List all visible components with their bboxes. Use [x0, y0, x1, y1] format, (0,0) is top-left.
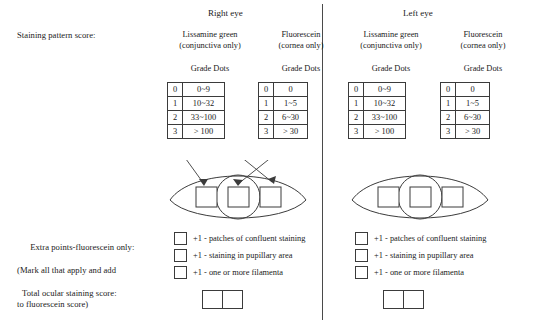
table-row: 1 1~5 [259, 97, 308, 111]
dots-cell: 0 [456, 83, 490, 97]
list-item[interactable]: +1 - patches of confluent staining [355, 230, 486, 247]
cornea-box [228, 187, 249, 207]
checkbox-confluent-staining[interactable] [355, 232, 368, 245]
list-item[interactable]: +1 - staining in pupillary area [355, 247, 486, 264]
right-lissamine-header-line2: (conjunctiva only) [160, 40, 260, 51]
dots-cell: 6~30 [456, 111, 490, 125]
extra-point-label: +1 - one or more filamenta [193, 267, 283, 278]
grade-cell: 0 [168, 83, 183, 97]
list-item[interactable]: +1 - one or more filamenta [355, 264, 486, 281]
grade-cell: 0 [349, 83, 364, 97]
right-lissamine-grade-table: 0 0~9 1 10~32 2 33~100 3 > 100 [167, 82, 225, 139]
checkbox-filamenta[interactable] [174, 266, 187, 279]
arrowhead-cornea [233, 179, 243, 186]
extra-points-label: Extra points-fluorescein only: (Mark all… [17, 231, 134, 324]
dots-cell: 0~9 [183, 83, 225, 97]
table-row: 1 10~32 [349, 97, 406, 111]
right-extra-points-list: +1 - patches of confluent staining +1 - … [174, 230, 305, 281]
table-row: 3 > 30 [259, 125, 308, 139]
temporal-conjunctiva-box [442, 187, 463, 207]
table-row: 2 6~30 [441, 111, 490, 125]
table-row: 1 1~5 [441, 97, 490, 111]
extra-point-label: +1 - patches of confluent staining [193, 233, 305, 244]
extra-point-label: +1 - staining in pupillary area [374, 250, 473, 261]
grade-cell: 1 [441, 97, 456, 111]
total-score-digit-cell[interactable] [202, 290, 223, 309]
checkbox-confluent-staining[interactable] [174, 232, 187, 245]
extra-points-label-line3: to fluorescein score) [17, 299, 134, 310]
right-fluorescein-header-line1: Fluorescein [281, 30, 320, 39]
checkbox-pupillary-staining[interactable] [355, 249, 368, 262]
grade-cell: 3 [441, 125, 456, 139]
arrow-fluorescein-to-cornea [238, 160, 283, 184]
right-lissamine-header-line1: Lissamine green [182, 30, 237, 39]
grade-cell: 3 [259, 125, 274, 139]
table-row: 2 6~30 [259, 111, 308, 125]
right-eye-diagram [168, 160, 318, 226]
temporal-conjunctiva-box [260, 187, 281, 207]
ocular-staining-score-form: Staining pattern score: Extra points-flu… [0, 0, 539, 324]
table-row: 0 0~9 [168, 83, 225, 97]
cornea-box [410, 187, 431, 207]
left-lissamine-grade-dots-header: Grade Dots [341, 64, 441, 73]
left-fluorescein-header-line1: Fluorescein [463, 30, 502, 39]
total-score-digit-cell[interactable] [383, 290, 404, 309]
eye-panel-divider [322, 4, 323, 320]
grade-cell: 0 [259, 83, 274, 97]
dots-cell: 1~5 [456, 97, 490, 111]
grade-cell: 2 [349, 111, 364, 125]
dots-cell: > 30 [456, 125, 490, 139]
mapping-arrows [178, 160, 283, 184]
checkbox-pupillary-staining[interactable] [174, 249, 187, 262]
grade-cell: 2 [168, 111, 183, 125]
total-score-digit-cell[interactable] [404, 290, 424, 309]
left-lissamine-header-line2: (conjunctiva only) [341, 40, 441, 51]
right-eye-panel: Right eye Lissamine green (conjunctiva o… [160, 0, 322, 324]
arrowhead-temporal [268, 176, 276, 184]
right-lissamine-grade-dots-header: Grade Dots [160, 64, 260, 73]
left-total-score-box[interactable] [383, 290, 424, 309]
left-fluorescein-grade-dots-header: Grade Dots [438, 64, 528, 73]
table-row: 1 10~32 [168, 97, 225, 111]
arrowhead-nasal [199, 179, 208, 186]
right-total-score-box[interactable] [202, 290, 243, 309]
dots-cell: 0 [274, 83, 308, 97]
dots-cell: > 100 [364, 125, 406, 139]
arrow-heads [199, 176, 276, 186]
checkbox-filamenta[interactable] [355, 266, 368, 279]
right-eye-title: Right eye [208, 8, 243, 18]
grade-cell: 2 [441, 111, 456, 125]
grade-cell: 2 [259, 111, 274, 125]
table-row: 0 0~9 [349, 83, 406, 97]
table-row: 3 > 100 [168, 125, 225, 139]
grade-cell: 1 [349, 97, 364, 111]
left-lissamine-header: Lissamine green (conjunctiva only) [341, 29, 441, 51]
extra-point-label: +1 - patches of confluent staining [374, 233, 486, 244]
table-row: 0 0 [441, 83, 490, 97]
dots-cell: 10~32 [364, 97, 406, 111]
extra-points-label-line2: (Mark all that apply and add [17, 265, 134, 276]
extra-point-label: +1 - staining in pupillary area [193, 250, 292, 261]
left-eye-title: Left eye [403, 8, 433, 18]
grade-cell: 0 [441, 83, 456, 97]
dots-cell: 0~9 [364, 83, 406, 97]
left-extra-points-list: +1 - patches of confluent staining +1 - … [355, 230, 486, 281]
nasal-conjunctiva-box [378, 187, 399, 207]
total-ocular-staining-score-label: Total ocular staining score: [22, 288, 117, 299]
left-fluorescein-header: Fluorescein (cornea only) [438, 29, 528, 51]
left-lissamine-grade-table: 0 0~9 1 10~32 2 33~100 3 > 100 [348, 82, 406, 139]
table-row: 0 0 [259, 83, 308, 97]
dots-cell: 33~100 [183, 111, 225, 125]
extra-points-label-line1: Extra points-fluorescein only: [30, 242, 134, 252]
staining-pattern-score-label: Staining pattern score: [17, 30, 95, 41]
dots-cell: > 30 [274, 125, 308, 139]
list-item[interactable]: +1 - staining in pupillary area [174, 247, 305, 264]
left-eye-diagram [350, 160, 500, 226]
list-item[interactable]: +1 - patches of confluent staining [174, 230, 305, 247]
left-fluorescein-grade-table: 0 0 1 1~5 2 6~30 3 > 30 [440, 82, 490, 139]
nasal-conjunctiva-box [196, 187, 217, 207]
grade-cell: 3 [349, 125, 364, 139]
table-row: 3 > 30 [441, 125, 490, 139]
total-score-digit-cell[interactable] [223, 290, 243, 309]
list-item[interactable]: +1 - one or more filamenta [174, 264, 305, 281]
